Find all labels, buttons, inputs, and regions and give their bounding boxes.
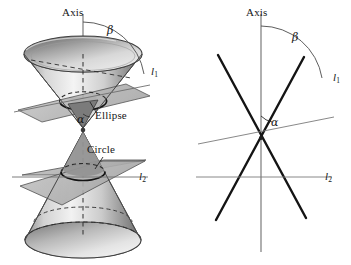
line-l1-right (198, 117, 334, 144)
l2-label-left-subscript: 2 (142, 175, 146, 184)
l2-label-right: l2 (325, 171, 332, 184)
l1-label-right-subscript: 1 (336, 76, 340, 85)
l2-label-left: l2 (139, 171, 146, 184)
circle-label: Circle (87, 144, 115, 155)
alpha-label-right: α (271, 117, 279, 128)
l2-label-right-subscript: 2 (328, 175, 332, 184)
l1-label-right: l1 (333, 72, 340, 85)
alpha-label-left: α (77, 114, 85, 125)
beta-label-left: β (107, 25, 114, 36)
lines-intersection-point (259, 136, 263, 140)
axis-label-right: Axis (246, 7, 268, 18)
left-panel-3d-cone (12, 14, 150, 258)
ellipse-label: Ellipse (95, 110, 127, 121)
axis-label-left: Axis (62, 7, 84, 18)
l1-label-left-subscript: 1 (154, 70, 158, 79)
right-panel-line-diagram (196, 14, 334, 252)
l1-label-left: l1 (151, 66, 158, 79)
beta-label-right: β (292, 32, 299, 43)
